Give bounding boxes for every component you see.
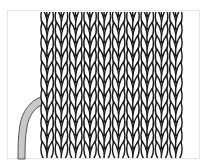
yarn-tail [18,97,44,159]
stitch-grid [41,0,182,163]
knitting-diagram [0,0,207,168]
